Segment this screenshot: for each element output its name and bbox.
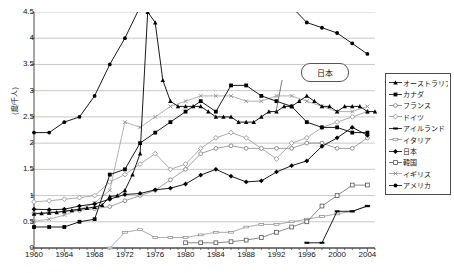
- legend-marker-icon: [388, 168, 403, 179]
- legend-label: ドイツ: [403, 112, 424, 122]
- legend-label: フランス: [403, 100, 431, 110]
- y-axis-tick-labels: 00.511.522.533.544.5: [0, 0, 34, 273]
- legend-label: イタリア: [403, 135, 431, 145]
- legend-marker-icon: [388, 100, 403, 111]
- legend-marker-icon: [388, 123, 403, 134]
- y-tick-label: 0.5: [8, 218, 34, 226]
- legend-item[interactable]: オーストラリア: [388, 77, 448, 88]
- legend-item[interactable]: アメリカ: [388, 180, 448, 191]
- japan-callout-label: 日本: [317, 67, 333, 78]
- legend-item[interactable]: イギリス: [388, 168, 448, 179]
- x-axis-tick-labels: 1960196419681972197619801984198819921996…: [0, 250, 454, 266]
- legend-item[interactable]: フランス: [388, 100, 448, 111]
- series-韓国: [184, 183, 370, 244]
- legend-label: アイルランド: [403, 123, 445, 133]
- legend-marker-icon: [388, 111, 403, 122]
- series-日本: [32, 125, 370, 212]
- y-tick-label: 2: [8, 139, 34, 147]
- series-オーストラリア: [32, 10, 377, 216]
- legend-marker-icon: [388, 180, 403, 191]
- legend-marker-icon: [388, 89, 403, 100]
- japan-callout: 日本: [301, 63, 349, 82]
- series-イギリス: [32, 94, 369, 223]
- legend-label: カナダ: [403, 89, 424, 99]
- y-tick-label: 3.5: [8, 60, 34, 68]
- legend-label: オーストラリア: [403, 78, 448, 88]
- y-axis-title: (度/千人): [9, 71, 19, 131]
- legend-marker-icon: [388, 134, 403, 145]
- y-tick-label: 1: [8, 192, 34, 200]
- legend-item[interactable]: 日本: [388, 145, 448, 156]
- legend-item[interactable]: 韓国: [388, 157, 448, 168]
- legend-item[interactable]: カナダ: [388, 88, 448, 99]
- legend-marker-icon: [388, 157, 403, 168]
- y-tick-label: 4.5: [8, 8, 34, 16]
- divorce-rate-line-chart: 00.511.522.533.544.5 1960196419681972197…: [0, 0, 454, 273]
- legend-marker-icon: [388, 77, 403, 88]
- y-tick-label: 1.5: [8, 165, 34, 173]
- chart-legend: オーストラリアカナダフランスドイツアイルランドイタリア日本韓国イギリスアメリカ: [385, 73, 451, 195]
- series-アイルランド: [304, 205, 369, 244]
- legend-label: アメリカ: [403, 180, 431, 190]
- legend-item[interactable]: イタリア: [388, 134, 448, 145]
- legend-label: 韓国: [403, 157, 417, 167]
- legend-item[interactable]: ドイツ: [388, 111, 448, 122]
- legend-label: イギリス: [403, 169, 431, 179]
- series-ドイツ: [32, 109, 370, 204]
- legend-item[interactable]: アイルランド: [388, 123, 448, 134]
- y-tick-label: 4: [8, 34, 34, 42]
- series-イタリア: [107, 205, 369, 249]
- x-tick-label: 2004: [347, 250, 387, 259]
- legend-label: 日本: [403, 146, 417, 156]
- legend-marker-icon: [388, 146, 403, 157]
